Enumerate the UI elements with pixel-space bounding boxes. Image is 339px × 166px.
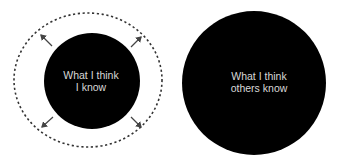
others-label-line2: others know: [231, 82, 288, 94]
arrow-bottom-right-icon: [131, 117, 141, 127]
others-circle-label: What I think others know: [231, 70, 288, 94]
known-circle-label: What I think I know: [63, 69, 118, 93]
known-label-line2: I know: [63, 81, 118, 93]
others-label-line1: What I think: [231, 70, 288, 82]
diagram-canvas: [0, 0, 339, 166]
known-label-line1: What I think: [63, 69, 118, 81]
arrow-top-right-icon: [131, 37, 141, 47]
arrow-bottom-left-icon: [42, 117, 53, 127]
arrow-top-left-icon: [41, 35, 52, 46]
